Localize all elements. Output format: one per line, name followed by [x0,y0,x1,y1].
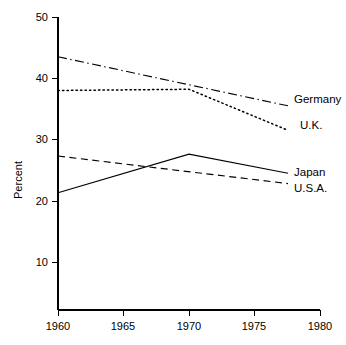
y-tick-label: 30 [36,133,48,145]
x-tick-label: 1960 [46,320,70,332]
series-label-uk: U.K. [300,119,322,131]
y-axis-ticks [52,17,58,262]
chart-canvas: 50 40 30 20 10 Percent 1960 1965 1970 19… [0,0,346,345]
x-tick-label: 1975 [242,320,266,332]
series-lines [58,57,288,193]
x-axis-ticks [58,310,320,316]
x-axis-tick-labels: 1960 1965 1970 1975 1980 [46,320,332,332]
line-chart: 50 40 30 20 10 Percent 1960 1965 1970 19… [0,0,346,345]
series-line-germany [58,57,288,106]
series-line-uk [58,89,288,130]
x-tick-label: 1965 [111,320,135,332]
y-tick-label: 20 [36,195,48,207]
y-tick-label: 40 [36,72,48,84]
y-axis-title: Percent [12,161,24,199]
x-tick-label: 1980 [308,320,332,332]
series-labels: Germany U.K. Japan U.S.A. [294,93,342,194]
series-line-usa [58,156,288,184]
y-tick-label: 50 [36,11,48,23]
x-tick-label: 1970 [177,320,201,332]
series-label-japan: Japan [294,166,325,178]
y-axis-tick-labels: 50 40 30 20 10 [36,11,48,268]
series-label-usa: U.S.A. [294,182,327,194]
y-tick-label: 10 [36,256,48,268]
series-label-germany: Germany [294,93,342,105]
